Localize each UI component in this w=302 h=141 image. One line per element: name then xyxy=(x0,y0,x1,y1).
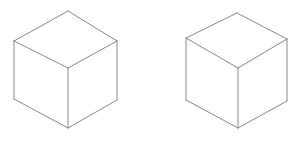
figure-canvas xyxy=(0,0,302,141)
cube-right xyxy=(186,13,287,128)
cubes-diagram xyxy=(0,0,302,141)
cube-left xyxy=(14,11,117,128)
